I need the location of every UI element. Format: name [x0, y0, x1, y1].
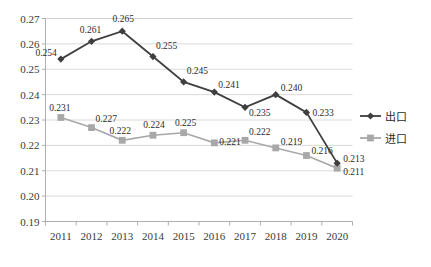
- data-point-label: 0.261: [80, 25, 102, 35]
- data-point-label: 0.219: [281, 137, 303, 147]
- data-point-marker: [272, 145, 279, 152]
- data-point-marker: [303, 152, 310, 159]
- data-point-marker: [180, 129, 187, 136]
- data-point-marker: [241, 104, 248, 111]
- data-point-label: 0.254: [35, 48, 57, 58]
- data-point-marker: [88, 124, 95, 131]
- y-axis-tick-label: 0.20: [20, 190, 40, 202]
- x-axis-tick-label: 2019: [295, 230, 318, 242]
- y-axis-tick-label: 0.22: [20, 139, 39, 151]
- y-axis-tick-label: 0.25: [20, 63, 40, 75]
- y-axis-tick-label: 0.21: [20, 165, 39, 177]
- data-point-label: 0.221: [219, 137, 241, 147]
- data-point-marker: [57, 56, 64, 63]
- legend-marker: [367, 112, 374, 119]
- data-point-label: 0.225: [175, 118, 197, 128]
- x-axis-tick-label: 2017: [234, 230, 257, 242]
- data-point-marker: [242, 137, 249, 144]
- x-axis-tick-label: 2015: [173, 230, 196, 242]
- legend-marker: [367, 135, 374, 142]
- data-point-label: 0.222: [249, 127, 271, 137]
- data-point-label: 0.255: [156, 41, 178, 51]
- legend-item-import[interactable]: 进口: [360, 133, 407, 145]
- y-axis-tick-label: 0.24: [20, 89, 40, 101]
- chart-container: 0.270.260.250.240.230.220.210.200.192011…: [0, 0, 431, 267]
- data-point-label: 0.227: [96, 114, 118, 124]
- data-point-label: 0.222: [110, 126, 132, 136]
- x-axis-tick-label: 2012: [81, 230, 103, 242]
- data-point-label: 0.224: [143, 120, 165, 130]
- y-axis-tick-label: 0.27: [20, 13, 40, 25]
- x-axis-tick-label: 2016: [203, 230, 226, 242]
- data-point-label: 0.231: [49, 103, 71, 113]
- data-point-label: 0.240: [281, 83, 303, 93]
- data-point-marker: [272, 91, 279, 98]
- y-axis-tick-label: 0.23: [20, 114, 40, 126]
- x-axis-tick-label: 2020: [326, 230, 349, 242]
- legend-label: 出口: [385, 110, 407, 123]
- data-point-marker: [119, 137, 126, 144]
- x-axis-tick-label: 2018: [265, 230, 288, 242]
- y-axis-tick-label: 0.19: [20, 216, 40, 228]
- legend-label: 进口: [385, 133, 407, 145]
- data-point-label: 0.245: [187, 66, 209, 76]
- data-point-marker: [211, 139, 218, 146]
- x-axis-tick-label: 2014: [142, 230, 165, 242]
- legend-item-export[interactable]: 出口: [360, 110, 407, 123]
- data-point-label: 0.241: [218, 80, 240, 90]
- data-point-label: 0.265: [113, 14, 135, 24]
- x-axis-tick-label: 2013: [111, 230, 134, 242]
- data-point-label: 0.233: [312, 108, 334, 118]
- data-point-marker: [150, 132, 157, 139]
- data-point-label: 0.235: [249, 108, 271, 118]
- data-point-label: 0.211: [343, 167, 364, 177]
- data-point-marker: [57, 114, 64, 121]
- x-axis-tick-label: 2011: [50, 230, 72, 242]
- data-point-label: 0.213: [343, 154, 365, 164]
- line-chart: 0.270.260.250.240.230.220.210.200.192011…: [0, 0, 431, 267]
